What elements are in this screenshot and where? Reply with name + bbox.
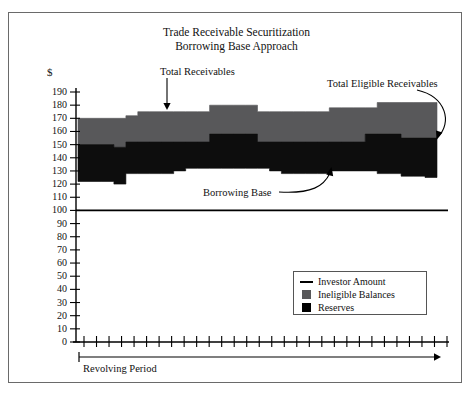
legend-swatch-icon bbox=[299, 289, 313, 300]
arrow-total-receivables-head bbox=[163, 103, 170, 110]
legend-swatch-icon bbox=[299, 302, 313, 313]
chart-legend: Investor AmountIneligible BalancesReserv… bbox=[293, 271, 427, 315]
legend-label: Ineligible Balances bbox=[318, 289, 395, 300]
legend-item-1: Ineligible Balances bbox=[299, 288, 421, 301]
x-axis-caption: Revolving Period bbox=[83, 363, 157, 374]
annotation-borrowing-base: Borrowing Base bbox=[203, 187, 272, 198]
legend-label: Reserves bbox=[318, 302, 354, 313]
legend-label: Investor Amount bbox=[318, 276, 386, 287]
revolving-period-arrow-head bbox=[434, 353, 441, 361]
annotation-total-eligible-receivables: Total Eligible Receivables bbox=[327, 78, 438, 89]
legend-line-icon bbox=[299, 276, 313, 287]
legend-item-2: Reserves bbox=[299, 301, 421, 314]
annotation-total-receivables: Total Receivables bbox=[160, 66, 235, 77]
legend-item-0: Investor Amount bbox=[299, 275, 421, 288]
arrow-borrowing-base-shaft bbox=[279, 173, 330, 192]
